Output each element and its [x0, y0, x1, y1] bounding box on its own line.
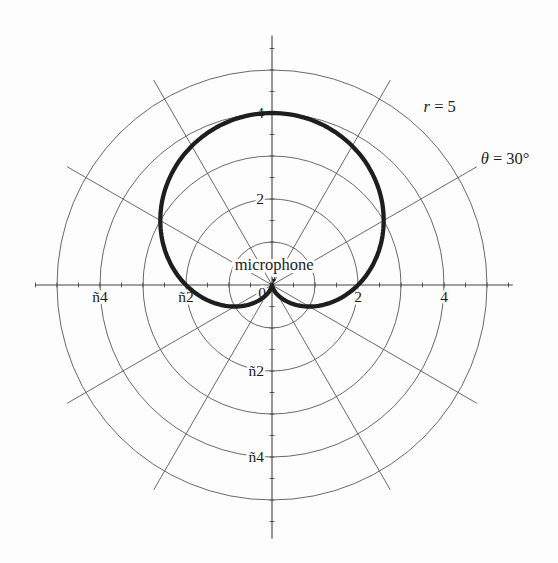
- y-tick-label: 2: [256, 190, 264, 207]
- outer-radius-label: r = 5: [424, 97, 456, 116]
- microphone-label: microphone: [235, 255, 314, 274]
- polar-plot-canvas: ñ4ñ224 42ñ2ñ4 0 r = 5 θ = 30° microphone: [0, 0, 558, 563]
- y-tick-label: ñ2: [249, 362, 265, 379]
- theta-symbol: θ: [481, 149, 489, 168]
- x-tick-label: 4: [440, 288, 448, 305]
- microphone-text: microphone: [235, 255, 314, 274]
- x-tick-label: ñ4: [92, 288, 108, 305]
- y-tick-label: ñ4: [249, 448, 265, 465]
- annotation-microphone: microphone: [235, 255, 314, 283]
- annotation-outer-radius: r = 5: [424, 97, 456, 116]
- x-tick-label: 2: [354, 288, 362, 305]
- angle-value: = 30°: [489, 149, 530, 168]
- angle-label: θ = 30°: [481, 149, 530, 168]
- polar-plot-figure: ñ4ñ224 42ñ2ñ4 0 r = 5 θ = 30° microphone: [0, 0, 558, 563]
- annotation-angle: θ = 30°: [481, 149, 530, 168]
- outer-radius-value: = 5: [430, 97, 456, 116]
